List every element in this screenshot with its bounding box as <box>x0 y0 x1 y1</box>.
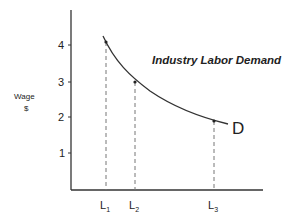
chart-title: Industry Labor Demand <box>152 54 282 66</box>
y-tick-label-1: 1 <box>59 147 65 159</box>
y-tick-label-4: 4 <box>58 39 64 51</box>
y-tick-label-3: 3 <box>58 76 64 88</box>
y-axis-label-line1: Wage <box>14 92 35 101</box>
x-label-l2: L2 <box>129 199 139 213</box>
y-axis-label-line2: $ <box>24 104 29 113</box>
x-label-l1: L1 <box>100 199 110 213</box>
point-l1 <box>104 40 107 43</box>
demand-curve <box>103 36 228 124</box>
labor-demand-chart: 4 3 2 1 Wage $ D Industry Labor Demand L… <box>0 0 308 221</box>
x-label-l3: L3 <box>208 199 218 213</box>
y-tick-label-2: 2 <box>58 111 64 123</box>
curve-points <box>104 40 215 122</box>
point-l2 <box>133 80 136 83</box>
curve-label-d: D <box>232 119 244 138</box>
point-l3 <box>212 119 215 122</box>
